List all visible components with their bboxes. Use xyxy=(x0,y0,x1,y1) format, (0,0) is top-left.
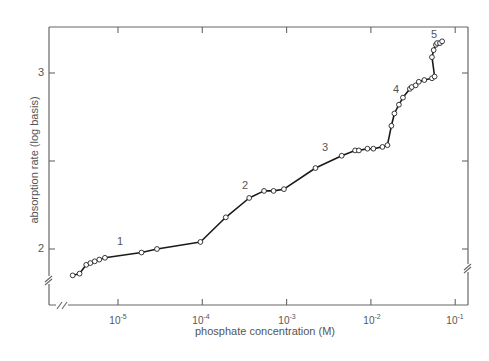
data-point xyxy=(247,196,252,201)
x-tick-label-1e-3: 10-3 xyxy=(278,313,295,326)
data-point xyxy=(422,78,427,83)
data-point xyxy=(282,187,287,192)
data-point xyxy=(262,189,267,194)
data-point xyxy=(223,215,228,220)
y-tick-label-2: 2 xyxy=(38,242,44,254)
data-point xyxy=(365,146,370,151)
data-point xyxy=(401,95,406,100)
data-point xyxy=(103,255,108,260)
data-point xyxy=(380,145,385,150)
data-point xyxy=(313,166,318,171)
data-point xyxy=(389,123,394,128)
region-label-2: 2 xyxy=(242,179,248,191)
axis-break-marks xyxy=(44,264,473,310)
data-point xyxy=(432,74,437,79)
region-label-1: 1 xyxy=(117,235,123,247)
data-point xyxy=(430,55,435,60)
data-point xyxy=(77,271,82,276)
data-point xyxy=(416,79,421,84)
data-point xyxy=(440,39,445,44)
data-point xyxy=(397,102,402,107)
data-point xyxy=(339,153,344,158)
axis-ticks xyxy=(49,27,468,305)
x-axis-label: phosphate concentration (M) xyxy=(195,325,335,337)
plot-frame xyxy=(49,27,468,305)
data-point xyxy=(356,148,361,153)
data-point xyxy=(371,146,376,151)
x-tick-label-1e-4: 10-4 xyxy=(192,313,209,326)
y-axis-label: absorption rate (log basis) xyxy=(28,80,40,240)
data-point xyxy=(97,257,102,262)
data-point xyxy=(431,48,436,53)
data-point xyxy=(139,250,144,255)
data-point xyxy=(70,273,75,278)
data-markers xyxy=(70,39,444,278)
data-point xyxy=(92,259,97,264)
x-tick-label-1e-1: 10-1 xyxy=(446,313,463,326)
data-point xyxy=(155,247,160,252)
region-label-4: 4 xyxy=(393,83,399,95)
data-point xyxy=(385,143,390,148)
data-point xyxy=(392,111,397,116)
data-point xyxy=(271,189,276,194)
data-line xyxy=(73,41,442,275)
x-tick-label-1e-5: 10-5 xyxy=(109,313,126,326)
x-tick-label-1e-2: 10-2 xyxy=(363,313,380,326)
data-point xyxy=(198,240,203,245)
y-tick-label-3: 3 xyxy=(38,66,44,78)
region-label-3: 3 xyxy=(322,141,328,153)
region-label-5: 5 xyxy=(431,28,437,40)
